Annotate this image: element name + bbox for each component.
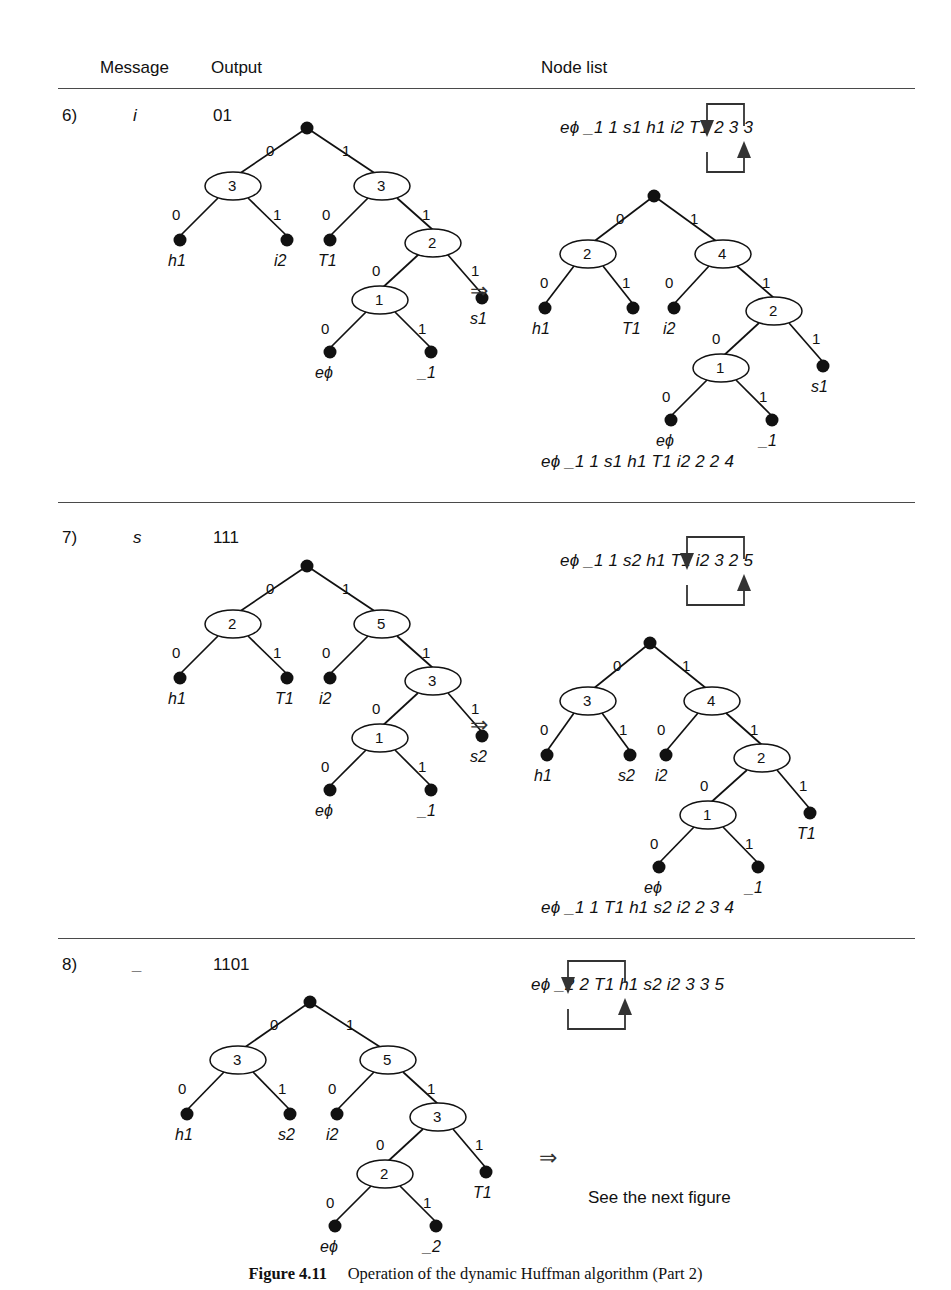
svg-text:T1: T1 <box>622 320 641 337</box>
implies-arrow-7: ⇒ <box>470 712 488 738</box>
svg-text:0: 0 <box>270 1016 278 1033</box>
svg-text:1: 1 <box>423 1194 431 1211</box>
row-output-7: 111 <box>213 528 239 548</box>
column-header-output: Output <box>211 58 262 78</box>
svg-text:2: 2 <box>228 615 236 632</box>
svg-text:T1: T1 <box>318 252 337 269</box>
svg-text:_2: _2 <box>421 1238 441 1255</box>
svg-text:s1: s1 <box>811 378 828 395</box>
svg-text:0: 0 <box>322 644 330 661</box>
svg-text:_1: _1 <box>743 879 763 896</box>
svg-text:0: 0 <box>326 1194 334 1211</box>
svg-text:0: 0 <box>616 210 624 227</box>
column-header-message: Message <box>100 58 169 78</box>
svg-text:T1: T1 <box>473 1184 492 1201</box>
svg-text:0: 0 <box>700 777 708 794</box>
svg-text:_1: _1 <box>416 802 436 819</box>
svg-text:0: 0 <box>172 206 180 223</box>
svg-text:0: 0 <box>657 721 665 738</box>
svg-text:4: 4 <box>718 245 726 262</box>
svg-text:1: 1 <box>812 330 820 347</box>
svg-text:1: 1 <box>745 835 753 852</box>
svg-text:1: 1 <box>471 262 479 279</box>
svg-text:i2: i2 <box>326 1126 339 1143</box>
svg-text:0: 0 <box>662 388 670 405</box>
svg-text:1: 1 <box>716 359 724 376</box>
svg-text:1: 1 <box>619 721 627 738</box>
column-header-node-list: Node list <box>541 58 607 78</box>
tree-before-6: 0 1 3 3 0 1 h1 i2 0 1 T1 2 0 1 1 s1 0 1 … <box>150 118 460 378</box>
svg-text:0: 0 <box>540 721 548 738</box>
svg-text:3: 3 <box>583 692 591 709</box>
svg-text:i2: i2 <box>663 320 676 337</box>
svg-text:2: 2 <box>428 234 436 251</box>
internal-weight: 3 <box>228 177 236 194</box>
divider-row-8 <box>58 938 915 939</box>
svg-text:eϕ: eϕ <box>320 1238 338 1255</box>
swap-arrows-7 <box>646 529 776 615</box>
svg-text:h1: h1 <box>175 1126 193 1143</box>
svg-text:1: 1 <box>418 758 426 775</box>
implies-arrow-6: ⇒ <box>470 278 488 304</box>
svg-text:1: 1 <box>799 777 807 794</box>
svg-text:1: 1 <box>759 388 767 405</box>
row-index-7: 7) <box>62 528 77 548</box>
tree-before-7: 0 1 2 5 0 1 h1 T1 0 1 i2 3 0 1 1 s2 0 1 … <box>150 556 460 816</box>
svg-text:1: 1 <box>278 1080 286 1097</box>
svg-text:h1: h1 <box>168 252 186 269</box>
svg-text:0: 0 <box>328 1080 336 1097</box>
svg-text:1: 1 <box>273 206 281 223</box>
row-index-8: 8) <box>62 955 77 975</box>
svg-text:s2: s2 <box>618 767 635 784</box>
tree-after-7: 0 1 3 4 0 1 h1 s2 0 1 i2 2 0 1 1 T1 0 1 … <box>540 633 870 893</box>
svg-text:3: 3 <box>433 1108 441 1125</box>
svg-text:0: 0 <box>266 142 274 159</box>
svg-text:1: 1 <box>418 320 426 337</box>
svg-text:h1: h1 <box>534 767 552 784</box>
figure-caption: Figure 4.11 Operation of the dynamic Huf… <box>0 1264 951 1284</box>
svg-text:0: 0 <box>172 644 180 661</box>
svg-text:1: 1 <box>703 806 711 823</box>
svg-text:h1: h1 <box>532 320 550 337</box>
svg-text:5: 5 <box>383 1051 391 1068</box>
svg-text:0: 0 <box>321 320 329 337</box>
svg-text:0: 0 <box>613 657 621 674</box>
svg-text:1: 1 <box>342 580 350 597</box>
svg-text:0: 0 <box>266 580 274 597</box>
swap-arrows-6 <box>666 96 796 182</box>
svg-text:0: 0 <box>540 274 548 291</box>
svg-text:0: 0 <box>372 700 380 717</box>
swap-arrows-8 <box>527 953 657 1039</box>
row-message-6: i <box>133 106 137 126</box>
svg-text:1: 1 <box>762 274 770 291</box>
svg-text:4: 4 <box>707 692 715 709</box>
svg-text:1: 1 <box>622 274 630 291</box>
row-message-7: s <box>133 528 142 548</box>
svg-text:0: 0 <box>712 330 720 347</box>
svg-text:eϕ: eϕ <box>656 432 674 449</box>
row-output-8: 1101 <box>213 955 250 975</box>
svg-text:0: 0 <box>665 274 673 291</box>
svg-text:1: 1 <box>427 1080 435 1097</box>
svg-text:eϕ: eϕ <box>315 364 333 381</box>
svg-text:0: 0 <box>372 262 380 279</box>
divider-header <box>58 88 915 89</box>
figure-caption-text: Operation of the dynamic Huffman algorit… <box>348 1264 703 1283</box>
svg-text:eϕ: eϕ <box>315 802 333 819</box>
svg-text:i2: i2 <box>655 767 668 784</box>
row-index-6: 6) <box>62 106 77 126</box>
svg-text:1: 1 <box>682 657 690 674</box>
svg-text:5: 5 <box>377 615 385 632</box>
svg-text:1: 1 <box>346 1016 354 1033</box>
svg-text:2: 2 <box>757 749 765 766</box>
svg-text:0: 0 <box>322 206 330 223</box>
figure-caption-label: Figure 4.11 <box>249 1264 344 1283</box>
svg-text:1: 1 <box>273 644 281 661</box>
tree-after-6: 0 1 2 4 0 1 h1 T1 0 1 i2 2 0 1 1 s1 0 1 … <box>540 186 870 446</box>
next-figure-note: See the next figure <box>588 1188 731 1208</box>
svg-text:1: 1 <box>422 644 430 661</box>
tree-before-8: 0 1 3 5 0 1 h1 s2 0 1 i2 3 0 1 2 T1 0 1 … <box>150 992 480 1252</box>
svg-text:i2: i2 <box>274 252 287 269</box>
svg-text:2: 2 <box>380 1165 388 1182</box>
svg-text:1: 1 <box>750 721 758 738</box>
